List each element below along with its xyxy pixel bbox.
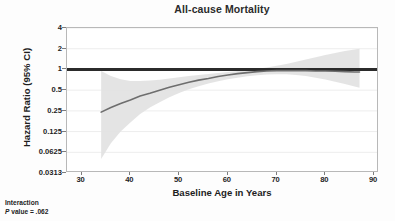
p-value-text: P value = .062	[5, 207, 48, 216]
chart-title: All-cause Mortality	[66, 3, 378, 15]
x-tick-label: 70	[256, 175, 296, 184]
interaction-p-value-annotation: Interaction P value = .062	[5, 198, 48, 216]
x-tick-label: 80	[304, 175, 344, 184]
interaction-label: Interaction	[5, 198, 48, 207]
plot-svg	[67, 28, 378, 172]
x-tick-label: 30	[61, 175, 101, 184]
plot-area	[66, 27, 378, 172]
x-tick-label: 60	[207, 175, 247, 184]
p-value-suffix: value = .062	[9, 208, 48, 215]
chart-figure: All-cause Mortality Hazard Ratio (95% CI…	[0, 0, 395, 221]
y-axis-tick-marks	[0, 27, 66, 172]
x-tick-label: 40	[109, 175, 149, 184]
x-tick-label: 90	[353, 175, 393, 184]
x-tick-label: 50	[158, 175, 198, 184]
x-axis-title: Baseline Age in Years	[66, 187, 378, 198]
